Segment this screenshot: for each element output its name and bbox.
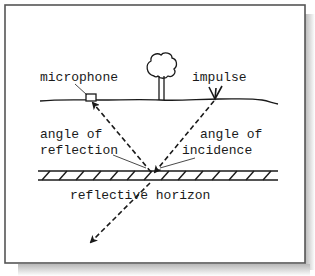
angle-of-reflection-label-line2: reflection	[40, 143, 118, 158]
frame-shadow-bottom	[18, 264, 310, 276]
microphone-icon	[86, 94, 96, 101]
angle-of-incidence-label-line1: angle of	[200, 127, 262, 142]
impulse-label: impulse	[192, 70, 247, 85]
angle-of-incidence-label-line2: incidence	[182, 143, 252, 158]
angle-of-reflection-label-line1: angle of	[40, 127, 102, 142]
reflective-horizon-label: reflective horizon	[70, 188, 210, 203]
frame-shadow-right	[305, 14, 315, 270]
reflection-diagram: microphone impulse angle of reflection a…	[0, 0, 315, 276]
microphone-label: microphone	[40, 70, 118, 85]
